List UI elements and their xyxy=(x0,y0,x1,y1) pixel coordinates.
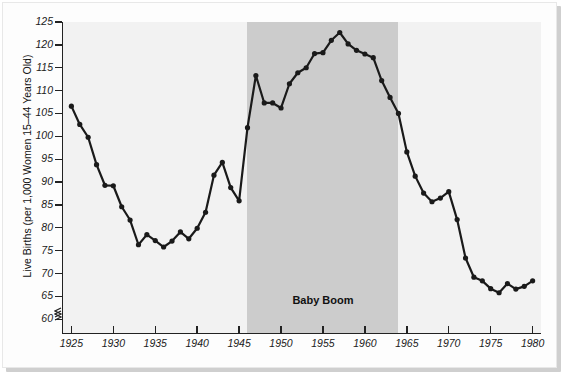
series-line-path xyxy=(71,33,532,293)
y-axis-tick-mark xyxy=(55,67,62,68)
plot-area: Baby Boom xyxy=(63,22,541,333)
data-point-marker xyxy=(446,189,451,194)
data-point-marker xyxy=(153,238,158,243)
data-point-marker xyxy=(245,125,250,130)
x-axis-tick-label: 1935 xyxy=(144,337,167,349)
y-axis-tick-label: 75 xyxy=(5,244,53,256)
x-axis-tick-label: 1965 xyxy=(395,337,418,349)
x-axis-tick-mark xyxy=(280,326,281,333)
data-point-marker xyxy=(371,55,376,60)
x-axis-tick-mark xyxy=(71,326,72,333)
data-point-marker xyxy=(144,232,149,237)
y-axis-tick-label: 100 xyxy=(5,129,53,141)
data-point-marker xyxy=(362,51,367,56)
data-point-marker xyxy=(270,100,275,105)
y-axis-tick-label: 80 xyxy=(5,221,53,233)
data-point-marker xyxy=(86,135,91,140)
x-axis-tick-mark xyxy=(406,326,407,333)
data-point-marker xyxy=(337,30,342,35)
data-point-marker xyxy=(77,122,82,127)
x-axis-tick-mark xyxy=(113,326,114,333)
figure-container: Live Births (per 1,000 Women 15–44 Years… xyxy=(0,0,567,378)
data-point-marker xyxy=(522,284,527,289)
y-axis-tick-label: 85 xyxy=(5,198,53,210)
x-axis-tick-label: 1980 xyxy=(521,337,544,349)
x-axis-tick-label: 1950 xyxy=(269,337,292,349)
x-axis-tick-mark xyxy=(196,326,197,333)
y-axis-tick-mark xyxy=(55,273,62,274)
data-point-marker xyxy=(220,160,225,165)
y-axis-tick-mark xyxy=(55,136,62,137)
data-point-marker xyxy=(387,95,392,100)
data-point-marker xyxy=(228,185,233,190)
x-axis-tick-label: 1940 xyxy=(185,337,208,349)
baby-boom-annotation-label: Baby Boom xyxy=(292,294,353,306)
y-axis-tick-mark xyxy=(55,181,62,182)
data-point-marker xyxy=(136,242,141,247)
data-point-marker xyxy=(505,281,510,286)
x-axis-tick-label: 1955 xyxy=(311,337,334,349)
x-axis-tick-label: 1925 xyxy=(60,337,83,349)
x-axis-tick-mark xyxy=(364,326,365,333)
data-point-marker xyxy=(513,286,518,291)
y-axis-tick-label: 125 xyxy=(5,15,53,27)
y-axis-tick-label: 115 xyxy=(5,61,53,73)
data-point-marker xyxy=(94,162,99,167)
y-axis-tick-label: 105 xyxy=(5,106,53,118)
data-point-marker xyxy=(463,255,468,260)
data-point-marker xyxy=(111,183,116,188)
data-point-marker xyxy=(186,236,191,241)
x-axis-tick-label: 1945 xyxy=(227,337,250,349)
x-axis-tick-label: 1960 xyxy=(353,337,376,349)
data-point-marker xyxy=(488,286,493,291)
y-axis-tick-mark xyxy=(55,296,62,297)
data-point-marker xyxy=(295,70,300,75)
y-axis-tick-mark xyxy=(55,250,62,251)
data-point-marker xyxy=(320,50,325,55)
y-axis-tick-mark xyxy=(55,227,62,228)
data-point-marker xyxy=(455,217,460,222)
data-point-marker xyxy=(471,275,476,280)
data-point-marker xyxy=(278,105,283,110)
y-axis-tick-label: 65 xyxy=(5,289,53,301)
y-axis-tick-mark xyxy=(55,113,62,114)
y-axis-tick-mark xyxy=(55,21,62,22)
data-point-marker xyxy=(404,149,409,154)
data-point-marker xyxy=(421,190,426,195)
data-point-marker xyxy=(329,38,334,43)
x-axis-tick-mark xyxy=(238,326,239,333)
y-axis-tick-label: 90 xyxy=(5,175,53,187)
data-point-marker xyxy=(429,199,434,204)
x-axis-tick-mark xyxy=(322,326,323,333)
data-point-marker xyxy=(69,104,74,109)
data-point-marker xyxy=(178,229,183,234)
data-point-marker xyxy=(195,226,200,231)
y-axis-tick-mark xyxy=(55,204,62,205)
birth-rate-line-series xyxy=(63,22,541,333)
x-axis-tick-mark xyxy=(490,326,491,333)
data-point-marker xyxy=(530,278,535,283)
data-point-marker xyxy=(127,217,132,222)
y-axis-tick-label: 95 xyxy=(5,152,53,164)
data-point-marker xyxy=(253,73,258,78)
data-point-marker xyxy=(346,41,351,46)
data-point-marker xyxy=(438,195,443,200)
y-axis-tick-label: 70 xyxy=(5,267,53,279)
y-axis-tick-mark xyxy=(55,44,62,45)
data-point-marker xyxy=(203,210,208,215)
y-axis-tick-mark xyxy=(55,319,62,320)
data-point-marker xyxy=(119,204,124,209)
data-point-marker xyxy=(396,111,401,116)
data-point-marker xyxy=(480,278,485,283)
y-axis-tick-label: 110 xyxy=(5,84,53,96)
y-axis-tick-labels: 6065707580859095100105110115120125 xyxy=(0,0,53,378)
y-axis-tick-mark xyxy=(55,90,62,91)
x-axis-tick-mark xyxy=(532,326,533,333)
data-point-marker xyxy=(413,174,418,179)
data-point-marker xyxy=(304,65,309,70)
data-point-marker xyxy=(496,290,501,295)
data-point-marker xyxy=(354,48,359,53)
x-axis-tick-mark xyxy=(448,326,449,333)
data-point-marker xyxy=(379,78,384,83)
x-axis-tick-label: 1970 xyxy=(437,337,460,349)
